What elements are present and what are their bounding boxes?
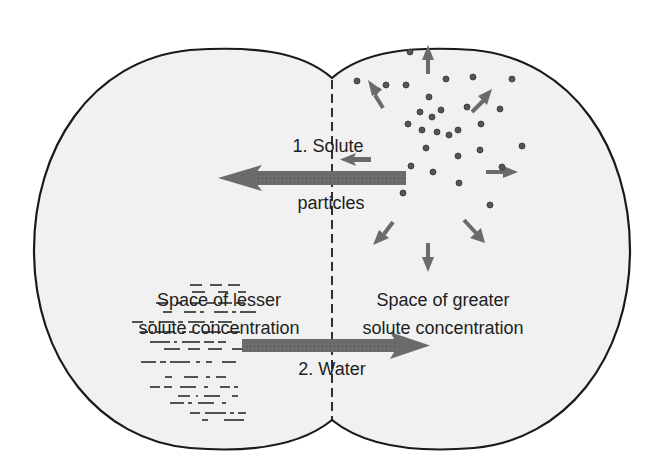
diffusion-diagram: 1. Solute particles Space of lesser solu…	[0, 0, 655, 475]
greater-concentration-label-line1: Space of greater	[376, 290, 509, 310]
lesser-concentration-label-line1: Space of lesser	[157, 290, 281, 310]
greater-concentration-label-line2: solute concentration	[362, 318, 523, 338]
lesser-concentration-label-line2: solute concentration	[138, 318, 299, 338]
solute-label-line1: 1. Solute	[292, 136, 363, 156]
solute-label-line2: particles	[297, 193, 364, 213]
water-label: 2. Water	[298, 359, 365, 379]
